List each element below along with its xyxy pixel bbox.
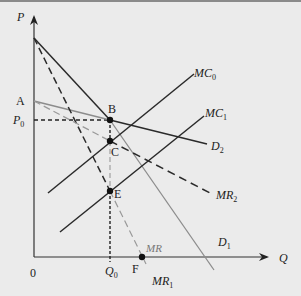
point-e-dot bbox=[107, 188, 113, 194]
p0-label: P0 bbox=[13, 114, 24, 129]
mr-label: MR bbox=[146, 243, 162, 254]
d1-label: D1 bbox=[218, 236, 231, 251]
mr1-lower-segment bbox=[110, 191, 146, 264]
mr1-upper-segment bbox=[34, 38, 110, 191]
d2-label-main: D bbox=[211, 139, 220, 153]
point-e-label: E bbox=[114, 188, 121, 200]
point-c-dot bbox=[107, 138, 113, 144]
mc1-label-main: MC bbox=[205, 106, 223, 120]
y-axis-label: P bbox=[17, 11, 24, 23]
q0-label-sub: 0 bbox=[114, 271, 118, 280]
mc0-label: MC0 bbox=[194, 67, 216, 82]
mr1-label-main: MR bbox=[152, 274, 169, 288]
p0-label-sub: 0 bbox=[20, 120, 24, 129]
point-c-label: C bbox=[111, 146, 119, 158]
d1-upper-segment bbox=[34, 38, 110, 120]
point-f-label: F bbox=[132, 263, 139, 275]
mr1-label-sub: 1 bbox=[169, 281, 173, 290]
mc0-curve bbox=[48, 74, 194, 193]
diagram-canvas: P Q 0 A B C E F P0 Q0 MC0 MC1 D2 MR2 D1 … bbox=[0, 0, 301, 296]
point-b-dot bbox=[107, 117, 113, 123]
point-f-dot bbox=[139, 254, 145, 260]
q0-label: Q0 bbox=[105, 265, 118, 280]
mc1-label-sub: 1 bbox=[223, 113, 227, 122]
d2-left-segment bbox=[34, 101, 110, 120]
point-a-label: A bbox=[16, 95, 25, 107]
mc1-curve bbox=[60, 116, 204, 232]
origin-label: 0 bbox=[30, 267, 36, 279]
x-axis-label: Q bbox=[279, 252, 288, 264]
d2-label: D2 bbox=[211, 140, 224, 155]
mr2-label: MR2 bbox=[216, 189, 237, 204]
mc0-label-main: MC bbox=[194, 66, 212, 80]
mr2-label-main: MR bbox=[216, 188, 233, 202]
d2-label-sub: 2 bbox=[220, 146, 224, 155]
point-b-label: B bbox=[108, 103, 116, 115]
mc1-label: MC1 bbox=[205, 107, 227, 122]
mc0-label-sub: 0 bbox=[212, 73, 216, 82]
mr2-right-segment bbox=[110, 141, 210, 193]
q0-label-main: Q bbox=[105, 264, 114, 278]
d1-label-sub: 1 bbox=[227, 242, 231, 251]
d1-label-main: D bbox=[218, 235, 227, 249]
mr1-label: MR1 bbox=[152, 275, 173, 290]
mr2-label-sub: 2 bbox=[233, 195, 237, 204]
